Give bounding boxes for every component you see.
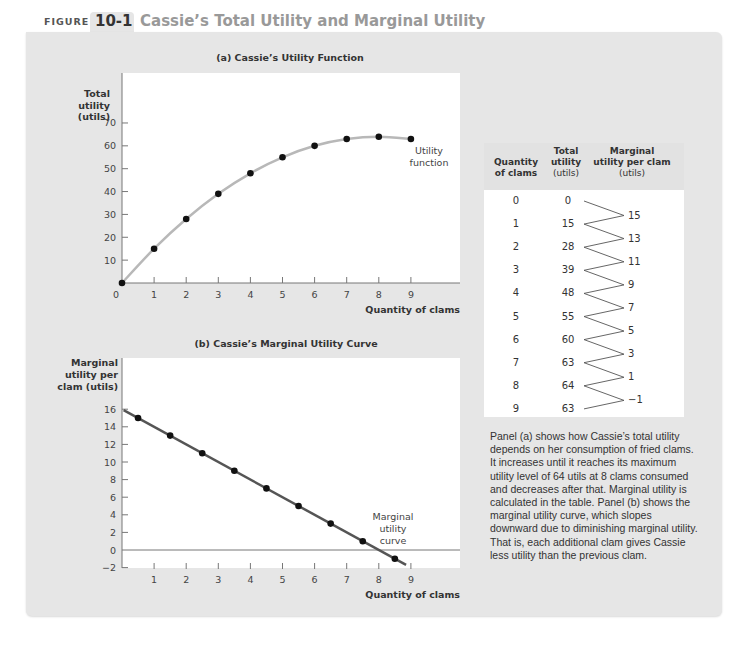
utility-function-label: Utility xyxy=(415,145,443,156)
svg-text:4: 4 xyxy=(247,289,253,300)
svg-text:4: 4 xyxy=(110,509,116,520)
utility-function-label-2: function xyxy=(410,157,449,168)
chart-a-plot-area xyxy=(122,73,460,283)
svg-text:12: 12 xyxy=(104,439,116,450)
svg-text:14: 14 xyxy=(104,421,116,432)
data-point xyxy=(167,432,174,439)
svg-text:7: 7 xyxy=(344,289,350,300)
data-point xyxy=(327,520,334,527)
svg-text:16: 16 xyxy=(104,404,116,415)
svg-text:40: 40 xyxy=(104,186,116,197)
data-point xyxy=(343,136,350,143)
svg-text:5: 5 xyxy=(279,289,285,300)
data-point xyxy=(408,136,415,143)
data-point xyxy=(376,133,383,140)
data-point xyxy=(263,485,270,492)
svg-text:9: 9 xyxy=(408,574,414,585)
chart-a-title: (a) Cassie’s Utility Function xyxy=(216,52,364,63)
svg-text:utility per: utility per xyxy=(65,369,118,380)
svg-text:1: 1 xyxy=(151,574,157,585)
data-point xyxy=(295,503,302,510)
svg-text:−2: −2 xyxy=(102,562,116,573)
chart-b-plot-area xyxy=(122,358,460,568)
svg-text:30: 30 xyxy=(104,209,116,220)
svg-text:6: 6 xyxy=(312,574,318,585)
svg-text:5: 5 xyxy=(279,574,285,585)
svg-text:4: 4 xyxy=(247,574,253,585)
svg-text:0: 0 xyxy=(113,289,119,300)
data-point xyxy=(151,245,158,252)
data-point xyxy=(135,415,142,422)
svg-text:clam (utils): clam (utils) xyxy=(57,381,118,392)
figure-caption: Panel (a) shows how Cassie’s total utili… xyxy=(490,430,700,562)
svg-text:8: 8 xyxy=(110,474,116,485)
svg-text:10: 10 xyxy=(104,255,116,266)
svg-text:utility: utility xyxy=(78,100,111,111)
mu-curve-label-1: Marginal xyxy=(373,511,414,522)
svg-text:6: 6 xyxy=(110,492,116,503)
chart-b-title: (b) Cassie’s Marginal Utility Curve xyxy=(194,338,377,349)
svg-text:0: 0 xyxy=(110,545,116,556)
chart-a-xlabel: Quantity of clams xyxy=(365,304,460,315)
chart-b-ylabel: Marginalutility perclam (utils) xyxy=(57,357,118,392)
svg-text:6: 6 xyxy=(312,289,318,300)
svg-text:8: 8 xyxy=(376,574,382,585)
svg-text:9: 9 xyxy=(408,289,414,300)
data-point xyxy=(279,154,286,161)
svg-text:Marginal: Marginal xyxy=(71,357,118,368)
chart-b-xlabel: Quantity of clams xyxy=(365,589,460,600)
svg-text:50: 50 xyxy=(104,163,116,174)
svg-text:7: 7 xyxy=(344,574,350,585)
svg-text:2: 2 xyxy=(183,289,189,300)
data-point xyxy=(359,538,366,545)
mu-curve-label-2: utility xyxy=(379,523,406,534)
svg-text:20: 20 xyxy=(104,232,116,243)
svg-text:10: 10 xyxy=(104,457,116,468)
svg-text:1: 1 xyxy=(151,289,157,300)
chart-b: (b) Cassie’s Marginal Utility Curve Marg… xyxy=(57,338,460,600)
data-point xyxy=(311,143,318,150)
svg-text:60: 60 xyxy=(104,140,116,151)
utility-table: Quantity of clams Total utility (utils) … xyxy=(484,143,684,417)
svg-text:Total: Total xyxy=(84,88,110,99)
chart-a: (a) Cassie’s Utility Function Totalutili… xyxy=(78,52,461,315)
data-point xyxy=(231,468,238,475)
data-point xyxy=(392,556,399,563)
svg-text:8: 8 xyxy=(376,289,382,300)
svg-text:2: 2 xyxy=(110,527,116,538)
svg-text:3: 3 xyxy=(215,574,221,585)
mu-curve-label-3: curve xyxy=(380,535,407,546)
svg-text:2: 2 xyxy=(183,574,189,585)
data-point xyxy=(199,450,206,457)
data-point xyxy=(183,216,190,223)
data-point xyxy=(119,280,126,287)
data-point xyxy=(247,170,254,177)
svg-text:70: 70 xyxy=(104,117,116,128)
data-point xyxy=(215,191,222,198)
marginal-zigzag-lines xyxy=(484,143,684,417)
svg-text:3: 3 xyxy=(215,289,221,300)
